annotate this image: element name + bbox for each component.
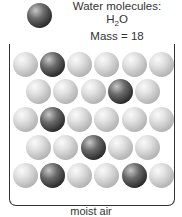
air-molecule <box>26 79 51 104</box>
air-molecule <box>53 79 78 104</box>
air-molecule <box>13 107 38 132</box>
caption: moist air <box>0 205 182 217</box>
air-molecule <box>67 52 92 77</box>
legend-mass: Mass = 18 <box>52 30 182 43</box>
water-molecule-legend-icon <box>27 3 52 28</box>
water-molecule <box>40 107 65 132</box>
air-molecule <box>122 52 147 77</box>
air-molecule <box>13 163 38 188</box>
legend-label: Water molecules: H2O Mass = 18 <box>52 0 182 43</box>
water-molecule <box>108 79 133 104</box>
air-molecule <box>53 135 78 160</box>
legend-formula: H2O <box>52 13 182 30</box>
air-molecule <box>67 107 92 132</box>
air-molecule <box>26 135 51 160</box>
air-molecule <box>81 79 106 104</box>
air-molecule <box>108 135 133 160</box>
legend-title: Water molecules: <box>52 0 182 13</box>
air-molecule <box>94 163 119 188</box>
water-molecule <box>122 163 147 188</box>
air-molecule <box>122 107 147 132</box>
water-molecule <box>40 163 65 188</box>
water-molecule <box>81 135 106 160</box>
air-molecule <box>149 52 174 77</box>
air-molecule <box>135 79 160 104</box>
air-molecule <box>135 135 160 160</box>
air-molecule <box>94 52 119 77</box>
air-molecule <box>94 107 119 132</box>
water-molecule <box>40 52 65 77</box>
air-container <box>9 44 175 206</box>
air-molecule <box>149 107 174 132</box>
air-molecule <box>67 163 92 188</box>
air-molecule <box>13 52 38 77</box>
air-molecule <box>149 163 174 188</box>
